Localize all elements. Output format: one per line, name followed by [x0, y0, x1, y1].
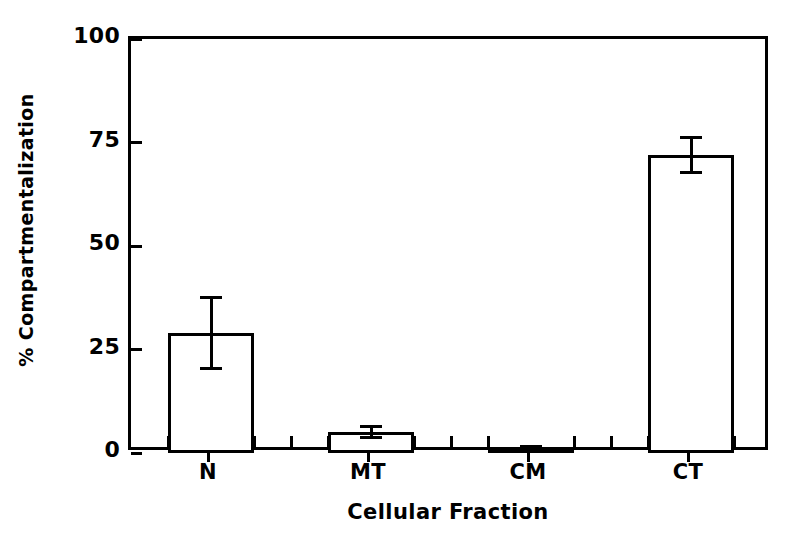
error-bar-cap-lower-ct [680, 171, 702, 174]
x-minor-tick-mark [573, 436, 576, 447]
x-tick-label-mt: MT [350, 462, 386, 483]
y-tick-mark [131, 141, 142, 144]
x-minor-tick-mark [610, 436, 613, 447]
y-axis-title-text: % Compartmentalization [15, 93, 37, 366]
x-tick-label-n: N [199, 462, 217, 483]
y-tick-label: 25 [58, 336, 120, 358]
plot-area [128, 36, 768, 450]
x-tick-mark [527, 450, 530, 462]
y-tick-mark [131, 348, 142, 351]
error-bar-line-n [210, 296, 213, 371]
x-tick-mark [687, 450, 690, 462]
error-bar-cap-lower-mt [360, 436, 382, 439]
error-bar-cap-upper-mt [360, 425, 382, 428]
y-tick-mark [131, 452, 142, 455]
x-minor-tick-mark [450, 436, 453, 447]
error-bar-cap-upper-ct [680, 136, 702, 139]
y-tick-mark [131, 38, 142, 41]
x-tick-label-cm: CM [510, 462, 547, 483]
x-minor-tick-mark [290, 436, 293, 447]
x-tick-mark [207, 450, 210, 462]
y-tick-label: 0 [58, 439, 120, 461]
y-tick-mark [131, 245, 142, 248]
error-bar-cap-lower-n [200, 367, 222, 370]
x-tick-label-ct: CT [673, 462, 703, 483]
error-bar-cap-lower-cm [520, 446, 542, 449]
y-tick-label: 100 [58, 25, 120, 47]
y-axis-title: % Compartmentalization [0, 0, 52, 460]
bar-chart-figure: % Compartmentalization 1007550250 NMTCMC… [0, 0, 792, 547]
bar-ct [648, 155, 734, 453]
plot-inner [131, 39, 765, 447]
y-tick-label: 75 [58, 129, 120, 151]
x-minor-tick-mark [487, 436, 490, 447]
error-bar-cap-upper-n [200, 296, 222, 299]
error-bar-line-ct [690, 136, 693, 173]
x-axis-title: Cellular Fraction [128, 500, 768, 524]
y-tick-label: 50 [58, 232, 120, 254]
x-tick-mark [367, 450, 370, 462]
x-axis-tick-labels: NMTCMCT [0, 462, 792, 492]
